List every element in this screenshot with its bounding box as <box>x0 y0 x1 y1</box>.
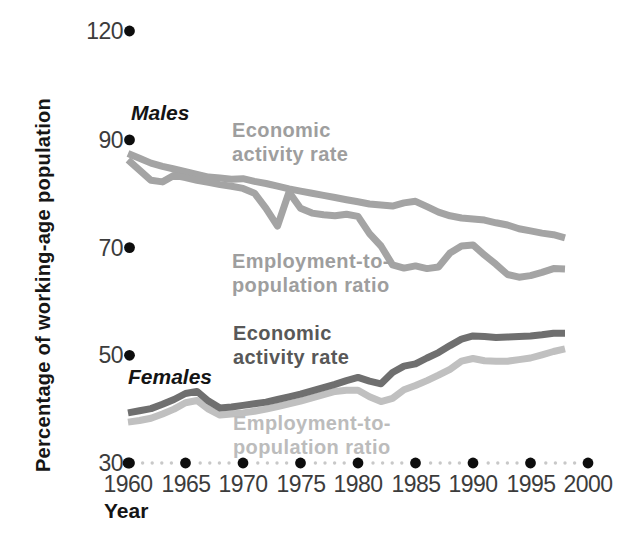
x-tick-dot <box>295 458 306 469</box>
y-tick-dot <box>124 135 135 146</box>
females-employment-to-population-ratio-label: Employment-to- population ratio <box>233 411 391 459</box>
males-group-label: Males <box>131 101 189 125</box>
axis-dot <box>333 461 336 464</box>
x-tick-dot <box>238 458 249 469</box>
axis-dot <box>314 461 317 464</box>
label-line-1: Economic <box>232 118 348 142</box>
x-tick-dot <box>468 458 479 469</box>
axis-dot <box>563 461 566 464</box>
y-tick-label: 90 <box>53 126 123 154</box>
x-tick-dot <box>123 458 134 469</box>
y-tick-dot <box>124 26 135 37</box>
x-axis-title: Year <box>104 499 148 523</box>
males-economic-activity-rate-label: Economic activity rate <box>232 118 348 166</box>
axis-dot <box>458 461 461 464</box>
axis-dot <box>496 461 499 464</box>
axis-dot <box>170 461 173 464</box>
axis-dot <box>199 461 202 464</box>
axis-dot <box>285 461 288 464</box>
axis-dot <box>400 461 403 464</box>
chart-figure: Percentage of working-age population Mal… <box>0 0 643 554</box>
label-line-2: activity rate <box>232 142 348 166</box>
females-group-label: Females <box>128 365 212 389</box>
label-line-2: population ratio <box>232 273 390 297</box>
label-line-1: Employment-to- <box>232 249 390 273</box>
axis-dot <box>266 461 269 464</box>
x-tick-dot <box>180 458 191 469</box>
axis-dot <box>554 461 557 464</box>
axis-dot <box>506 461 509 464</box>
x-tick-dot <box>410 458 421 469</box>
y-tick-dot <box>124 350 135 361</box>
label-line-2: population ratio <box>233 435 391 459</box>
axis-dot <box>515 461 518 464</box>
females-economic-activity-rate-label: Economic activity rate <box>233 321 349 369</box>
y-tick-label: 50 <box>53 341 123 369</box>
axis-dot <box>371 461 374 464</box>
x-tick-dot <box>583 458 594 469</box>
x-tick-label: 2000 <box>553 471 623 497</box>
axis-dot <box>448 461 451 464</box>
axis-dot <box>343 461 346 464</box>
axis-dot <box>227 461 230 464</box>
axis-dot <box>141 461 144 464</box>
males-employment-to-population-ratio-label: Employment-to- population ratio <box>232 249 390 297</box>
axis-dot <box>323 461 326 464</box>
y-tick-dot <box>124 242 135 253</box>
axis-dot <box>208 461 211 464</box>
label-line-2: activity rate <box>233 345 349 369</box>
axis-dot <box>160 461 163 464</box>
axis-dot <box>218 461 221 464</box>
axis-dot <box>256 461 259 464</box>
x-tick-dot <box>353 458 364 469</box>
axis-dot <box>275 461 278 464</box>
x-tick-dot <box>525 458 536 469</box>
axis-dot <box>573 461 576 464</box>
y-tick-label: 70 <box>53 234 123 262</box>
label-line-1: Economic <box>233 321 349 345</box>
axis-dot <box>487 461 490 464</box>
axis-dot <box>429 461 432 464</box>
axis-dot <box>439 461 442 464</box>
y-tick-label: 120 <box>53 17 123 45</box>
axis-dot <box>544 461 547 464</box>
label-line-1: Employment-to- <box>233 411 391 435</box>
axis-dot <box>391 461 394 464</box>
line-males-economic-activity-rate <box>128 153 565 238</box>
axis-dot <box>151 461 154 464</box>
axis-dot <box>381 461 384 464</box>
